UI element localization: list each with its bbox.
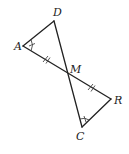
segment-RC: [82, 99, 111, 127]
segment-AD: [23, 21, 54, 46]
label-M: M: [69, 63, 82, 76]
label-D: D: [52, 6, 62, 19]
label-R: R: [113, 94, 122, 107]
label-A: A: [13, 40, 22, 53]
segment-AR: [23, 46, 111, 99]
label-C: C: [76, 130, 85, 143]
geometry-diagram: A D M R C: [0, 0, 129, 154]
